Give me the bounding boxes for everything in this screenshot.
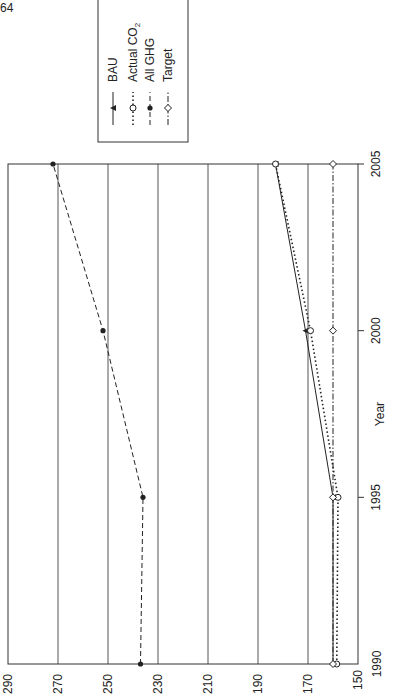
series-actual-co2 [273, 161, 342, 667]
year-tick-label: 1990 [370, 650, 384, 677]
value-tick-label: 250 [101, 674, 115, 694]
value-tick-label: 150 [351, 670, 365, 690]
year-tick-label: 1995 [369, 484, 383, 511]
legend-label: Target [161, 48, 175, 82]
rotated-line-chart: 64 150170190210230250270290 199019952000… [0, 0, 399, 698]
value-tick-label: 190 [251, 674, 265, 694]
year-axis-label: Year [373, 402, 387, 426]
plot-frame [8, 164, 358, 664]
value-tick-label: 210 [201, 674, 215, 694]
value-axis-ticks: 150170190210230250270290 [1, 670, 365, 694]
value-tick-label: 170 [301, 674, 315, 694]
value-tick-label: 270 [51, 674, 65, 694]
value-tick-label: 230 [151, 674, 165, 694]
page-number: 64 [0, 1, 14, 15]
year-tick-label: 2005 [369, 150, 383, 177]
value-tick-label: 290 [1, 674, 15, 694]
series-target [330, 161, 337, 668]
series-bau [273, 161, 337, 667]
legend-label: BAU [106, 57, 120, 82]
data-series [50, 161, 341, 668]
year-tick-label: 2000 [369, 317, 383, 344]
legend-label: Actual CO2 [126, 22, 142, 82]
gridlines [58, 164, 308, 664]
legend: BAUActual CO2All GHGTarget [98, 0, 188, 142]
legend-label: All GHG [143, 38, 157, 82]
series-all-ghg [50, 161, 145, 666]
